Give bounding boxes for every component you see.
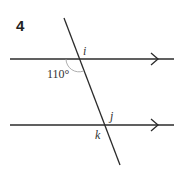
transversal-line xyxy=(64,18,120,165)
label-j: j xyxy=(110,109,113,124)
parallel-lines-diagram xyxy=(0,0,187,171)
top-parallel-line xyxy=(10,53,174,65)
label-i: i xyxy=(83,44,86,59)
bottom-parallel-line xyxy=(10,119,174,131)
label-k: k xyxy=(95,128,100,143)
angle-label: 110° xyxy=(47,67,69,82)
